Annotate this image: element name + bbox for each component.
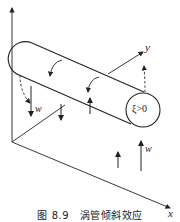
rotation-arrow-icon <box>50 60 62 76</box>
tilt-arrow-right-icon <box>144 66 145 92</box>
vortex-tube-tilting-figure: y x ξ>0 w w 图 8.9 涡管倾斜效应 <box>0 0 180 222</box>
rotation-arrow-icon <box>88 77 99 92</box>
vortex-tube-diagram <box>0 0 180 222</box>
y-axis-label: y <box>145 42 150 53</box>
vertical-velocity-arrows <box>31 86 141 171</box>
tube-end-label: ξ>0 <box>132 104 147 114</box>
w-right-label: w <box>145 144 152 154</box>
w-left-label: w <box>35 104 42 114</box>
figure-caption: 图 8.9 涡管倾斜效应 <box>0 207 180 222</box>
rotation-arrows <box>50 60 99 92</box>
y-axis <box>12 52 143 142</box>
